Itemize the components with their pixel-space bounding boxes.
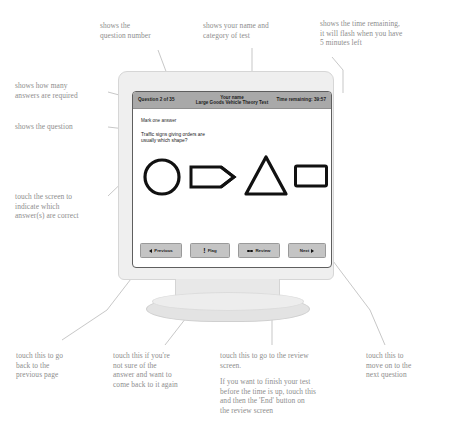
annotation-answers-required: shows how many answers are required	[15, 81, 115, 100]
time-remaining: Time remaining: 39:57	[277, 97, 326, 102]
annotation-next-button: touch this to move on to the next questi…	[366, 351, 451, 380]
annotation-flag-button: touch this if you're not sure of the ans…	[113, 351, 213, 389]
answer-option-pennant[interactable]	[189, 163, 237, 195]
annotation-review-button-part2: If you want to finish your test before t…	[220, 377, 350, 415]
review-button-label: Review	[255, 248, 270, 253]
annotation-previous-button: touch this to go back to the previous pa…	[16, 351, 111, 380]
annotation-review-button-part1: touch this to go to the review screen.	[220, 351, 350, 370]
annotated-diagram: Question 2 of 35 Your name Large Goods V…	[0, 0, 456, 441]
left-arrow-icon	[149, 249, 152, 253]
previous-button-label: Previous	[154, 248, 173, 253]
flag-button[interactable]: ! Flag	[190, 243, 230, 258]
annotation-question-number: shows the question number	[100, 21, 195, 40]
monitor-screen: Question 2 of 35 Your name Large Goods V…	[132, 91, 332, 268]
answer-option-rectangle[interactable]	[293, 163, 329, 193]
next-button-label: Next	[300, 248, 310, 253]
answers-required-instruction: Mark one answer	[141, 118, 176, 123]
previous-button[interactable]: Previous	[140, 243, 182, 258]
right-arrow-icon	[311, 249, 314, 253]
exam-header-bar: Question 2 of 35 Your name Large Goods V…	[133, 92, 331, 109]
flag-button-label: Flag	[208, 248, 217, 253]
answer-options	[133, 150, 331, 212]
dots-icon	[247, 248, 253, 253]
annotation-name-category: shows your name and category of test	[203, 21, 313, 40]
question-text: Traffic signs giving orders are usually …	[141, 132, 205, 145]
answer-option-circle[interactable]	[142, 156, 182, 202]
exam-button-row: Previous ! Flag Review Next	[133, 243, 331, 260]
review-button[interactable]: Review	[238, 243, 280, 258]
next-button[interactable]: Next	[288, 243, 326, 258]
annotation-touch-screen: touch the screen to indicate which answe…	[15, 192, 115, 221]
monitor-stand-base-top	[152, 292, 304, 311]
monitor-body: Question 2 of 35 Your name Large Goods V…	[118, 71, 334, 280]
answer-option-triangle[interactable]	[243, 153, 289, 202]
exclamation-icon: !	[203, 247, 205, 254]
annotation-time-remaining: shows the time remaining, it will flash …	[320, 19, 450, 48]
annotation-the-question: shows the question	[15, 122, 115, 132]
